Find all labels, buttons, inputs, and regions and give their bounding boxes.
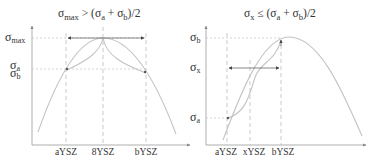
stress-diagram: σmax > (σa + σb)/2 σmax σa σb aYSZ 8YSZ … <box>0 0 375 161</box>
right-x-label-aYSZ: aYSZ <box>215 147 237 157</box>
right-x-label-bYSZ: bYSZ <box>272 147 295 157</box>
right-x-label-xYSZ: xYSZ <box>243 147 266 157</box>
left-main-curve <box>38 38 176 134</box>
right-title: σx ≤ (σa + σb)/2 <box>244 7 316 22</box>
left-x-label-bYSZ: bYSZ <box>135 147 158 157</box>
right-panel: σx ≤ (σa + σb)/2 σb σx σa aYSZ xYSZ bYSZ <box>190 7 366 157</box>
left-panel: σmax > (σa + σb)/2 σmax σa σb aYSZ 8YSZ … <box>5 7 190 157</box>
left-title: σmax > (σa + σb)/2 <box>58 7 141 22</box>
left-point-b <box>144 71 146 73</box>
left-point-a <box>66 68 68 70</box>
right-label-sigma-x: σx <box>190 60 200 75</box>
right-main-curve <box>223 37 362 140</box>
right-label-sigma-b: σb <box>190 30 200 45</box>
right-label-sigma-a: σa <box>190 110 200 125</box>
left-inner-curve-b <box>103 38 146 73</box>
left-x-label-aYSZ: aYSZ <box>55 147 77 157</box>
left-label-sigma-max: σmax <box>5 30 25 45</box>
right-point-a <box>227 117 229 119</box>
left-x-label-8YSZ: 8YSZ <box>92 147 115 157</box>
left-inner-curve-a <box>67 38 103 70</box>
